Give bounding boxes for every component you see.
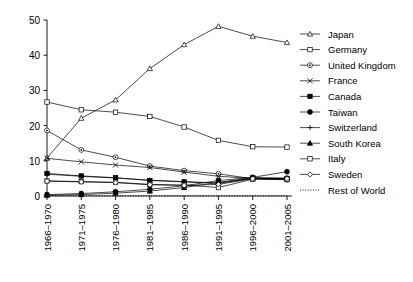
- y-tick-label: 30: [29, 85, 41, 96]
- marker-square-open: [308, 47, 312, 51]
- marker-circle-dot: [115, 157, 116, 158]
- legend-label: Japan: [328, 29, 354, 40]
- marker-circle-dot: [184, 170, 185, 171]
- legend-label: Taiwan: [328, 107, 358, 118]
- marker-square-open: [113, 110, 117, 114]
- marker-circle-dot: [309, 65, 310, 66]
- x-tick-label: 1976–1980: [110, 204, 121, 252]
- legend-label: South Korea: [328, 138, 382, 149]
- marker-circle-filled: [285, 169, 290, 174]
- x-tick-label: 1996–2000: [247, 204, 258, 252]
- legend-label: United Kingdom: [328, 60, 396, 71]
- marker-circle-dot: [81, 149, 82, 150]
- x-tick-label: 1966–1970: [42, 204, 53, 252]
- x-tick-label: 1986–1990: [179, 204, 190, 252]
- marker-square-open: [182, 125, 186, 129]
- legend-label: France: [328, 75, 358, 86]
- legend-label: Italy: [328, 153, 346, 164]
- x-tick-label: 1981–1985: [144, 204, 155, 252]
- line-chart-figure: 01020304050 1966–19701971–19751976–19801…: [0, 0, 413, 282]
- legend-label: Germany: [328, 44, 367, 55]
- y-tick-label: 10: [29, 156, 41, 167]
- marker-circle-dot: [218, 173, 219, 174]
- legend-label: Switzerland: [328, 122, 377, 133]
- y-tick-label: 20: [29, 121, 41, 132]
- marker-square-open: [251, 145, 255, 149]
- marker-circle-filled: [308, 110, 313, 115]
- marker-square-filled: [308, 94, 312, 98]
- y-tick-label: 0: [34, 191, 40, 202]
- marker-square-open: [148, 114, 152, 118]
- marker-square-open: [285, 145, 289, 149]
- marker-circle-dot: [46, 130, 47, 131]
- legend-label: Rest of World: [328, 185, 385, 196]
- x-tick-label: 2001–2005: [282, 204, 293, 252]
- legend-label: Sweden: [328, 169, 362, 180]
- legend-label: Canada: [328, 91, 362, 102]
- y-tick-label: 50: [29, 15, 41, 26]
- marker-square-open: [216, 138, 220, 142]
- x-tick-label: 1991–1995: [213, 204, 224, 252]
- marker-square-open: [45, 100, 49, 104]
- marker-square-open: [308, 157, 312, 161]
- y-tick-label: 40: [29, 50, 41, 61]
- x-tick-label: 1971–1975: [76, 204, 87, 252]
- marker-square-open: [79, 108, 83, 112]
- marker-circle-dot: [149, 166, 150, 167]
